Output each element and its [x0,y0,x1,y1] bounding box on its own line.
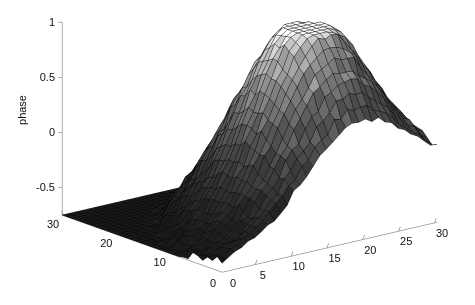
surface-plot-figure: phase -0.500.510102030051015202530 [0,0,475,305]
surface-plot-canvas [0,0,475,305]
